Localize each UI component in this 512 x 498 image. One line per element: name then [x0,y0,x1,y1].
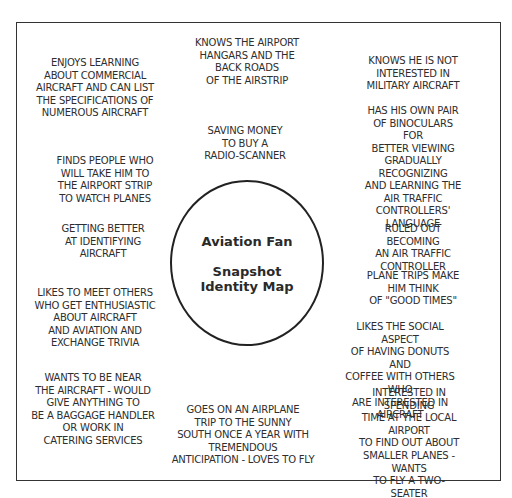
note-commercial: ENJOYS LEARNING ABOUT COMMERCIAL AIRCRAF… [36,57,154,120]
note-language: GRADUALLY RECOGNIZING AND LEARNING THE A… [364,155,463,231]
note-hangars: KNOWS THE AIRPORT HANGARS AND THE BACK R… [195,37,299,87]
note-baggage: WANTS TO BE NEAR THE AIRCRAFT - WOULD GI… [31,372,155,448]
center-subtitle: Snapshot Identity Map [200,264,293,294]
center-title: Aviation Fan [202,234,293,249]
note-trivia: LIKES TO MEET OTHERS WHO GET ENTHUSIASTI… [34,287,155,350]
note-good-times: PLANE TRIPS MAKE HIM THINK OF "GOOD TIME… [367,270,459,308]
note-trip-south: GOES ON AN AIRPLANE TRIP TO THE SUNNY SO… [172,404,315,467]
note-identifying: GETTING BETTER AT IDENTIFYING AIRCRAFT [61,223,144,261]
note-military: KNOWS HE IS NOT INTERESTED IN MILITARY A… [367,55,460,93]
note-ruled-out: RULED OUT BECOMING AN AIR TRAFFIC CONTRO… [364,223,463,273]
note-strip: FINDS PEOPLE WHO WILL TAKE HIM TO THE AI… [57,155,154,205]
note-binoculars: HAS HIS OWN PAIR OF BINOCULARS FOR BETTE… [364,105,463,155]
center-circle [170,180,324,346]
note-local-airport: INTERESTED IN SPENDING TIME AT THE LOCAL… [358,387,461,498]
note-scanner: SAVING MONEY TO BUY A RADIO-SCANNER [204,125,286,163]
